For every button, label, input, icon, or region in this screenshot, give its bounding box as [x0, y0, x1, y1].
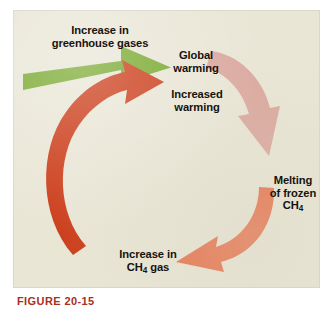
melting-formula: CH4: [283, 199, 303, 211]
global-warming-line2: warming: [173, 62, 218, 74]
node-label-increased-warming: Increased warming: [151, 88, 243, 113]
node-label-increase-ch4-gas: Increase in CH4 gas: [102, 248, 194, 273]
ch4gas-formula-base: CH: [127, 261, 143, 273]
ch4gas-formula-tail: gas: [147, 261, 169, 273]
figure-root: Increase in greenhouse gases Global warm…: [0, 0, 335, 309]
red-curved-arrow: [46, 60, 164, 255]
greenhouse-line2: greenhouse gases: [52, 37, 149, 49]
melting-line2: of frozen: [270, 187, 316, 199]
node-label-greenhouse-gases: Increase in greenhouse gases: [30, 24, 170, 49]
figure-caption: FIGURE 20-15: [17, 296, 217, 309]
ch4gas-formula-subscript: 4: [143, 266, 147, 275]
melting-line1: Melting: [274, 174, 312, 186]
increased-warming-line1: Increased: [171, 88, 222, 100]
global-warming-line1: Global: [179, 49, 213, 61]
diagram-panel: Increase in greenhouse gases Global warm…: [13, 10, 320, 288]
node-label-melting-frozen-ch4: Melting of frozen CH4: [256, 174, 330, 212]
greenhouse-line1: Increase in: [71, 24, 128, 36]
ch4gas-line1: Increase in: [119, 248, 176, 260]
figure-caption-text: FIGURE 20-15: [17, 296, 217, 307]
ch4gas-formula: CH4 gas: [127, 261, 169, 273]
melting-formula-subscript: 4: [299, 204, 303, 213]
node-label-global-warming: Global warming: [159, 49, 233, 74]
melting-formula-base: CH: [283, 199, 299, 211]
increased-warming-line2: warming: [174, 101, 219, 113]
